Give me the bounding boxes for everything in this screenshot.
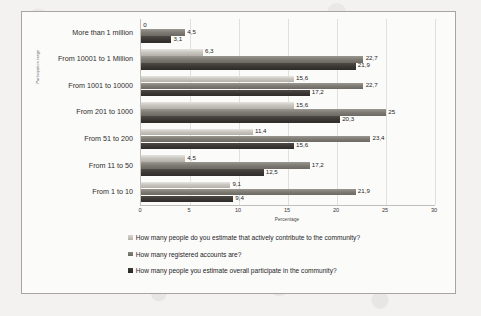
bar-value-label: 15,6	[296, 142, 308, 148]
y-axis-category-label: From 1001 to 10000	[68, 72, 133, 99]
y-axis-category-label: From 10001 to 1 Million	[58, 46, 133, 73]
x-axis-tick-label: 30	[431, 207, 437, 213]
bar	[141, 116, 340, 123]
legend-swatch-icon	[128, 252, 133, 257]
legend-swatch-icon	[128, 235, 133, 240]
y-axis-category-label: From 1 to 10	[92, 178, 133, 205]
plot-area-wrapper: Participation range More than 1 millionF…	[31, 19, 446, 223]
legend-item[interactable]: How many people you estimate overall par…	[128, 267, 445, 274]
bar	[141, 56, 363, 63]
bar-value-label: 9,4	[235, 195, 244, 201]
x-axis-tick-label: 15	[284, 207, 290, 213]
bar-value-label: 4,5	[187, 29, 196, 35]
bar-value-label: 20,3	[342, 116, 354, 122]
bar	[141, 189, 356, 196]
bar-value-label: 3,1	[174, 36, 183, 42]
x-axis-tick-label: 20	[333, 207, 339, 213]
chart-container: Participation range More than 1 millionF…	[21, 11, 456, 294]
bar-value-label: 17,2	[312, 89, 324, 95]
bar-value-label: 17,2	[312, 162, 324, 168]
bar-value-label: 21,9	[358, 188, 370, 194]
bar-group: 11,423,415,6	[141, 125, 435, 152]
bar	[141, 63, 356, 70]
bar	[141, 90, 310, 97]
y-axis-category-label: From 51 to 200	[84, 125, 133, 152]
bar	[141, 182, 230, 189]
y-axis-category-labels: More than 1 millionFrom 10001 to 1 Milli…	[41, 19, 137, 205]
bar	[141, 143, 294, 150]
bar	[141, 76, 294, 83]
x-axis-tick-label: 5	[187, 207, 190, 213]
y-axis-category-label: More than 1 million	[72, 19, 133, 46]
legend-item[interactable]: How many registered accounts are?	[128, 251, 445, 258]
bar-value-label: 25	[388, 109, 395, 115]
x-axis-tick-label: 10	[235, 207, 241, 213]
x-axis-tick-label: 25	[382, 207, 388, 213]
bar-value-label: 12,5	[266, 169, 278, 175]
bar-group: 9,121,99,4	[141, 178, 435, 205]
bar	[141, 36, 171, 43]
bar	[141, 83, 363, 90]
bar	[141, 196, 233, 203]
x-axis-title: Percentage	[140, 217, 434, 222]
bar	[141, 169, 264, 176]
bar-value-label: 21,9	[358, 62, 370, 68]
legend-label: How many people you estimate overall par…	[136, 267, 337, 274]
y-axis-category-label: From 201 to 1000	[76, 99, 133, 126]
bar-group: 15,622,717,2	[141, 72, 435, 99]
bar-value-label: 9,1	[232, 181, 241, 187]
bar-value-label: 11,4	[255, 128, 267, 134]
bar-value-label: 0	[143, 22, 146, 28]
bar-value-label: 23,4	[373, 135, 385, 141]
chart-legend: How many people do you estimate that act…	[128, 234, 445, 284]
bar	[141, 162, 310, 169]
gridline	[435, 19, 436, 205]
bar	[141, 129, 253, 136]
legend-item[interactable]: How many people do you estimate that act…	[128, 234, 445, 241]
bar-group: 4,517,212,5	[141, 152, 435, 179]
bar-group: 6,322,721,9	[141, 46, 435, 73]
bar	[141, 155, 185, 162]
bar-value-label: 4,5	[187, 155, 196, 161]
bar-group: 15,62520,3	[141, 99, 435, 126]
bar-value-label: 22,7	[366, 82, 378, 88]
bar	[141, 136, 370, 143]
bar-value-label: 15,6	[296, 75, 308, 81]
legend-swatch-icon	[128, 268, 133, 273]
bar-group: 04,53,1	[141, 19, 435, 46]
bar	[141, 102, 294, 109]
plot-area: 04,53,16,322,721,915,622,717,215,62520,3…	[140, 19, 435, 206]
legend-label: How many people do you estimate that act…	[136, 234, 360, 241]
bar-value-label: 6,3	[205, 48, 214, 54]
y-axis-title: Participation range	[36, 75, 40, 84]
bar	[141, 49, 203, 56]
legend-label: How many registered accounts are?	[136, 251, 242, 258]
y-axis-category-label: From 11 to 50	[89, 152, 133, 179]
bar-value-label: 15,6	[296, 102, 308, 108]
x-axis-tick-label: 0	[138, 207, 141, 213]
